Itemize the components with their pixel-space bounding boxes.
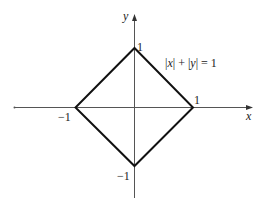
x-axis: [14, 105, 254, 110]
x-axis-label: x: [245, 109, 252, 123]
diamond-diagram: y x 1 1 −1 −1 |x| + |y| = 1: [0, 0, 262, 205]
tick-y-neg: −1: [117, 169, 130, 183]
tick-y-pos: 1: [137, 40, 143, 54]
y-axis-arrow-icon: [132, 14, 137, 21]
tick-x-pos: 1: [194, 93, 200, 107]
tick-x-neg: −1: [58, 110, 71, 124]
x-axis-left-end: [14, 107, 16, 109]
equation-label: |x| + |y| = 1: [165, 56, 217, 70]
y-axis-label: y: [122, 9, 129, 23]
